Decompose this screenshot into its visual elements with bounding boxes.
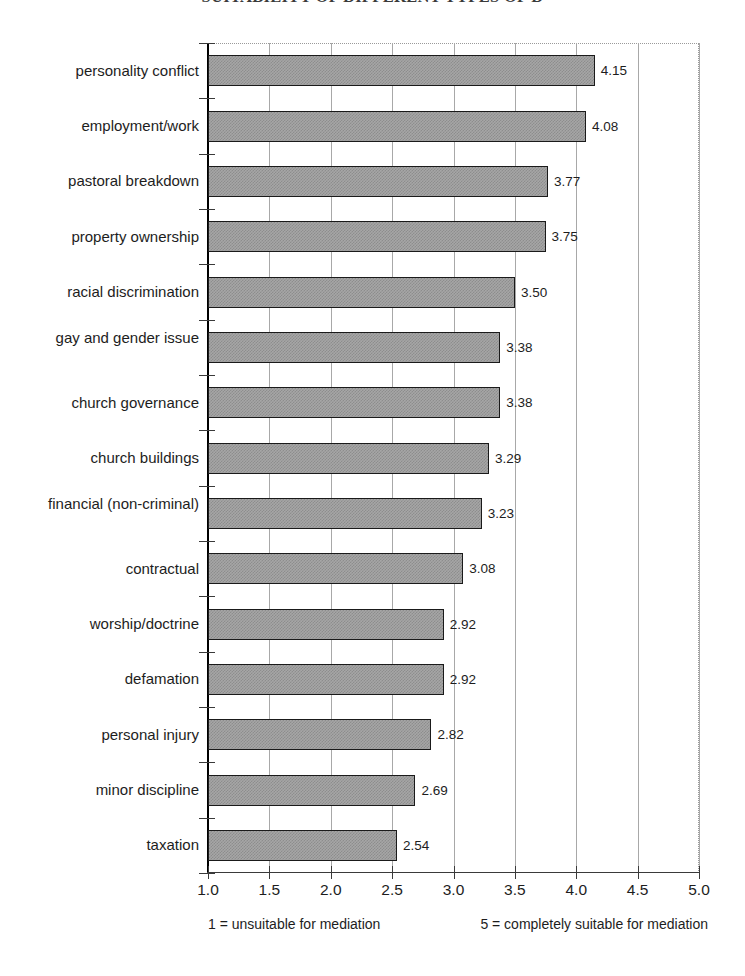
value-axis-tick-label: 3.0	[424, 881, 484, 899]
bar	[208, 830, 397, 861]
bar	[208, 664, 444, 695]
bar-value-label: 3.38	[506, 341, 532, 355]
bar	[208, 498, 482, 529]
value-axis-tick	[331, 866, 332, 879]
category-axis-label: church buildings	[9, 449, 199, 467]
bar-value-label: 3.29	[495, 452, 521, 466]
bar-value-label: 3.77	[554, 175, 580, 189]
bar-value-label: 2.82	[437, 728, 463, 742]
value-axis-tick-label: 2.0	[301, 881, 361, 899]
value-axis-tick	[269, 866, 270, 879]
category-axis-tick	[199, 818, 215, 819]
category-axis-tick	[199, 652, 215, 653]
category-axis-label: minor discipline	[9, 781, 199, 799]
category-axis-label: financial (non-criminal)	[9, 495, 199, 513]
bar-value-label: 2.92	[450, 673, 476, 687]
value-axis-tick	[699, 866, 700, 879]
category-axis-tick	[199, 98, 215, 99]
axis-scale-note: 1 = unsuitable for mediation 5 = complet…	[208, 916, 708, 932]
category-axis-tick	[199, 762, 215, 763]
category-axis-tick	[199, 375, 215, 376]
bar-value-label: 3.23	[488, 507, 514, 521]
value-axis-tick	[576, 866, 577, 879]
bar-value-label: 2.54	[403, 839, 429, 853]
value-axis-tick-label: 2.5	[362, 881, 422, 899]
value-axis-tick	[392, 866, 393, 879]
category-axis-tick	[199, 596, 215, 597]
category-axis-tick	[199, 486, 215, 487]
bar	[208, 553, 463, 584]
bar-value-label: 3.08	[469, 562, 495, 576]
bar	[208, 221, 546, 252]
category-axis-tick	[199, 209, 215, 210]
bar-chart-figure: 4.154.083.773.753.503.383.383.293.233.08…	[0, 0, 745, 976]
category-axis-tick	[199, 264, 215, 265]
category-axis-tick	[199, 320, 215, 321]
value-axis-tick	[515, 866, 516, 879]
category-axis-label: employment/work	[9, 117, 199, 135]
bar-value-label: 2.92	[450, 618, 476, 632]
category-axis-label: gay and gender issue	[9, 329, 199, 347]
category-axis-tick	[199, 541, 215, 542]
bar	[208, 55, 595, 86]
bar	[208, 332, 500, 363]
value-axis-tick-label: 5.0	[669, 881, 729, 899]
category-axis-label: taxation	[9, 836, 199, 854]
bar-value-label: 3.38	[506, 396, 532, 410]
scale-note-max: 5 = completely suitable for mediation	[480, 916, 708, 932]
value-axis-tick-label: 1.0	[178, 881, 238, 899]
category-axis-tick	[199, 430, 215, 431]
category-axis-label: racial discrimination	[9, 283, 199, 301]
category-axis-tick	[199, 707, 215, 708]
bar	[208, 443, 489, 474]
category-axis-tick	[199, 154, 215, 155]
value-axis-tick	[208, 866, 209, 879]
value-axis-tick-label: 4.0	[546, 881, 606, 899]
bar	[208, 387, 500, 418]
category-axis-tick	[199, 43, 215, 44]
value-axis-tick-label: 1.5	[239, 881, 299, 899]
category-axis-label: personality conflict	[9, 62, 199, 80]
bar-value-label: 2.69	[421, 784, 447, 798]
category-axis-label: worship/doctrine	[9, 615, 199, 633]
bar	[208, 609, 444, 640]
value-axis-tick-label: 3.5	[485, 881, 545, 899]
category-axis-label: defamation	[9, 670, 199, 688]
category-axis-label: personal injury	[9, 726, 199, 744]
category-axis-label: pastoral breakdown	[9, 172, 199, 190]
category-axis-label: property ownership	[9, 228, 199, 246]
bar-value-label: 4.15	[601, 64, 627, 78]
bar	[208, 111, 586, 142]
bar	[208, 166, 548, 197]
value-axis-tick	[454, 866, 455, 879]
category-axis-label: church governance	[9, 394, 199, 412]
bar	[208, 775, 415, 806]
bar-value-label: 3.50	[521, 286, 547, 300]
bar-value-label: 4.08	[592, 120, 618, 134]
scale-note-min: 1 = unsuitable for mediation	[208, 916, 380, 932]
category-axis-label: contractual	[9, 560, 199, 578]
category-axis-tick	[199, 873, 215, 874]
value-axis-tick	[638, 866, 639, 879]
bar	[208, 277, 515, 308]
bar-value-label: 3.75	[552, 230, 578, 244]
value-axis-tick-label: 4.5	[608, 881, 668, 899]
bar	[208, 719, 431, 750]
